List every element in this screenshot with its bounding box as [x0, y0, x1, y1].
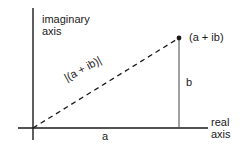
diagram-canvas: [0, 0, 247, 152]
real-component-label: a: [102, 130, 108, 142]
imaginary-axis-label-line1: imaginary: [42, 13, 90, 25]
point-marker: [177, 36, 182, 41]
imaginary-axis-label-line2: axis: [42, 25, 62, 37]
imaginary-component-label: b: [186, 76, 192, 88]
real-axis-label: realaxis: [211, 116, 231, 140]
point-label: (a + ib): [189, 31, 224, 43]
imaginary-axis-label: imaginaryaxis: [42, 13, 90, 37]
real-axis-label-line1: real: [211, 116, 229, 128]
complex-plane-diagram: imaginaryaxis (a + ib) realaxis b a |(a …: [0, 0, 247, 152]
real-axis-label-line2: axis: [211, 128, 231, 140]
modulus-dashed-line: [33, 38, 179, 128]
